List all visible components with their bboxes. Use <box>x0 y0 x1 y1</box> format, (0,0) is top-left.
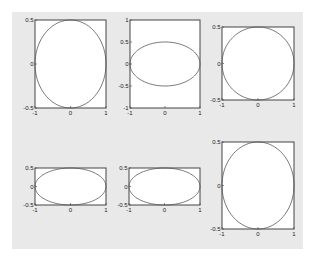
axes-4-ytick-label: -0.5 <box>23 202 34 208</box>
axes-2-ytick-label: 0.5 <box>120 39 129 45</box>
axes-6-ytick-label: -0.5 <box>210 226 221 232</box>
axes-5-xtick-label: 1 <box>198 207 202 213</box>
axes-2-box <box>130 20 200 108</box>
axes-2-ytick-label: 0 <box>125 61 129 67</box>
axes-2-xtick-label: 1 <box>198 110 202 116</box>
axes-3-ytick-label: -0.5 <box>210 97 221 103</box>
axes-5-xtick-label: 0 <box>163 207 167 213</box>
axes-5-ytick-label: -0.5 <box>117 202 128 208</box>
axes-1-ytick-label: 0 <box>30 61 34 67</box>
axes-6-xtick-label: 0 <box>256 231 260 237</box>
axes-6-ytick-label: 0.5 <box>212 139 221 145</box>
axes-3-xtick-label: 0 <box>256 102 260 108</box>
axes-2-ytick-label: -0.5 <box>118 83 129 89</box>
subplot-grid: -101-0.500.5-101-1-0.500.51-101-0.500.5-… <box>0 0 317 262</box>
axes-1-xtick-label: 0 <box>69 110 73 116</box>
axes-6-ytick-label: 0 <box>217 183 221 189</box>
axes-4-xtick-label: 0 <box>69 207 73 213</box>
axes-1-ytick-label: 0.5 <box>25 17 34 23</box>
axes-2-ytick-label: 1 <box>125 17 129 23</box>
axes-1-ytick-label: -0.5 <box>23 105 34 111</box>
axes-1-xtick-label: 1 <box>104 110 108 116</box>
axes-4-xtick-label: 1 <box>104 207 108 213</box>
axes-6-xtick-label: 1 <box>292 231 296 237</box>
axes-4-ytick-label: 0.5 <box>25 165 34 171</box>
axes-3-ytick-label: 0 <box>217 61 221 67</box>
axes-5-ytick-label: 0.5 <box>119 165 128 171</box>
axes-3-ytick-label: 0.5 <box>212 24 221 30</box>
axes-4-ytick-label: 0 <box>30 184 34 190</box>
axes-3-xtick-label: 1 <box>292 102 296 108</box>
axes-2-ytick-label: -1 <box>123 105 129 111</box>
axes-5-ytick-label: 0 <box>124 184 128 190</box>
axes-2-xtick-label: 0 <box>163 110 167 116</box>
